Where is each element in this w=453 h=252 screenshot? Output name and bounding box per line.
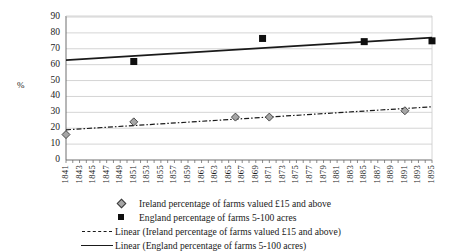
x-tick-label: 1875 bbox=[291, 165, 300, 183]
x-tick-label: 1855 bbox=[156, 165, 165, 183]
y-tick-label: 60 bbox=[36, 60, 60, 69]
x-tick-label: 1869 bbox=[251, 165, 260, 183]
legend-item-label: Ireland percentage of farms valued £15 a… bbox=[138, 198, 331, 209]
chart-legend: Ireland percentage of farms valued £15 a… bbox=[0, 196, 453, 252]
legend-item[interactable]: Linear (England percentage of farms 5-10… bbox=[0, 238, 453, 252]
y-tick-label: 50 bbox=[36, 76, 60, 85]
legend-item-label: Linear (Ireland percentage of farms valu… bbox=[114, 226, 341, 237]
x-tick-label: 1873 bbox=[278, 165, 287, 183]
x-tick-label: 1885 bbox=[359, 165, 368, 183]
x-tick-label: 1887 bbox=[373, 165, 382, 183]
legend-item-label: England percentage of farms 5-100 acres bbox=[138, 212, 296, 223]
x-tick-label: 1851 bbox=[129, 165, 138, 183]
x-tick-label: 1863 bbox=[210, 165, 219, 183]
x-tick-label: 1847 bbox=[102, 165, 111, 183]
x-tick-label: 1853 bbox=[142, 165, 151, 183]
trendlines bbox=[66, 38, 432, 130]
y-tick-label: 90 bbox=[36, 12, 60, 21]
legend-item[interactable]: Ireland percentage of farms valued £15 a… bbox=[0, 196, 453, 210]
x-tick-label: 1859 bbox=[183, 165, 192, 183]
legend-item-label: Linear (England percentage of farms 5-10… bbox=[114, 240, 306, 251]
y-tick-label: 80 bbox=[36, 28, 60, 37]
x-tick-label: 1867 bbox=[237, 165, 246, 183]
gridlines bbox=[66, 17, 432, 144]
chart-container: % 9080706050403020100 184118431845184718… bbox=[0, 0, 453, 252]
x-tick-label: 1883 bbox=[346, 165, 355, 183]
x-tick-label: 1841 bbox=[61, 165, 70, 183]
x-tick-label: 1843 bbox=[75, 165, 84, 183]
legend-solid-line-icon bbox=[80, 245, 114, 246]
x-tick-label: 1877 bbox=[305, 165, 314, 183]
x-tick-label: 1895 bbox=[427, 165, 436, 183]
legend-diamond-icon-glyph bbox=[116, 198, 126, 208]
data-markers bbox=[62, 35, 436, 139]
legend-dashed-line-icon bbox=[80, 231, 114, 232]
y-tick-label: 70 bbox=[36, 44, 60, 53]
x-tick-label: 1879 bbox=[319, 165, 328, 183]
y-tick-label: 40 bbox=[36, 91, 60, 100]
legend-item[interactable]: Linear (Ireland percentage of farms valu… bbox=[0, 224, 453, 238]
y-tick-label: 20 bbox=[36, 123, 60, 132]
x-tick-label: 1889 bbox=[386, 165, 395, 183]
x-tick-label: 1891 bbox=[400, 165, 409, 183]
y-axis-title: % bbox=[17, 80, 25, 90]
legend-solid-line-icon-glyph bbox=[81, 245, 113, 246]
x-tick-label: 1881 bbox=[332, 165, 341, 183]
legend-square-icon bbox=[104, 214, 138, 220]
legend-item[interactable]: England percentage of farms 5-100 acres bbox=[0, 210, 453, 224]
x-tick-label: 1849 bbox=[115, 165, 124, 183]
x-tick-label: 1865 bbox=[224, 165, 233, 183]
y-tick-label: 0 bbox=[36, 155, 60, 164]
x-tick-label: 1871 bbox=[264, 165, 273, 183]
y-tick-label: 30 bbox=[36, 107, 60, 116]
x-tick-label: 1845 bbox=[88, 165, 97, 183]
axis-lines bbox=[66, 16, 432, 160]
legend-dashed-line-icon-glyph bbox=[82, 231, 112, 232]
x-tick-label: 1857 bbox=[169, 165, 178, 183]
x-tick-label: 1893 bbox=[413, 165, 422, 183]
legend-square-icon-glyph bbox=[118, 214, 124, 220]
y-tick-label: 10 bbox=[36, 139, 60, 148]
legend-diamond-icon bbox=[104, 200, 138, 207]
x-tick-label: 1861 bbox=[197, 165, 206, 183]
